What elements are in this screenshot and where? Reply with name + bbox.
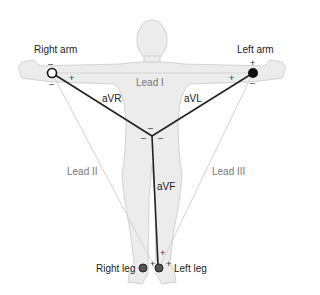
- left-arm-plus-top: +: [250, 59, 255, 68]
- lead-iii-plus: +: [166, 260, 171, 269]
- lead-ii-label: Lead II: [67, 167, 98, 177]
- right-leg-label: Right leg: [96, 264, 135, 274]
- left-leg-label: Left leg: [174, 264, 207, 274]
- center-minus-right: –: [158, 134, 163, 143]
- right-arm-minus-top: –: [48, 60, 53, 69]
- left-arm-label: Left arm: [237, 45, 274, 55]
- right-arm-label: Right arm: [34, 45, 77, 55]
- left-leg-electrode: [155, 264, 163, 272]
- lead-i-plus-near-ra: +: [69, 74, 74, 83]
- lead-i-plus-near-la: +: [229, 74, 234, 83]
- avr-label: aVR: [102, 94, 121, 104]
- right-leg-electrode: [139, 264, 147, 272]
- left-arm-minus-bottom: –: [250, 79, 255, 88]
- left-arm-electrode: [248, 68, 258, 78]
- right-arm-electrode: [48, 69, 57, 78]
- lead-i-label: Lead I: [136, 78, 164, 88]
- center-minus-left: –: [141, 134, 146, 143]
- avf-plus: +: [160, 249, 165, 258]
- lead-iii-label: Lead III: [212, 167, 245, 177]
- lead-ii-plus: +: [150, 260, 155, 269]
- right-arm-minus-bottom: –: [49, 80, 54, 89]
- avl-label: aVL: [184, 94, 202, 104]
- center-minus-top: –: [148, 124, 153, 133]
- avf-label: aVF: [157, 182, 175, 192]
